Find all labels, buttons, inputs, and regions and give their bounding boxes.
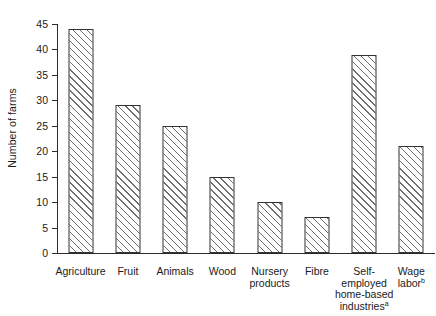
bar-chart: Number of farms 051015202530354045 Agric… (0, 0, 436, 316)
bar[interactable] (257, 202, 282, 253)
bar-slot (246, 10, 293, 253)
bar[interactable] (399, 146, 424, 253)
bar-series (57, 10, 435, 253)
footnote-marker: b (421, 276, 425, 283)
bar[interactable] (304, 217, 329, 253)
bar[interactable] (210, 177, 235, 253)
footnote-marker: a (385, 299, 389, 306)
bar-slot (104, 10, 151, 253)
bar[interactable] (163, 126, 188, 253)
y-axis-tick-label: 45 (36, 19, 48, 29)
y-axis-tick-label: 40 (36, 44, 48, 54)
y-axis-tick-label: 25 (36, 121, 48, 131)
y-axis-tick-labels: 051015202530354045 (26, 10, 52, 260)
y-axis-tick-label: 0 (42, 248, 48, 258)
y-axis-tick-label: 20 (36, 146, 48, 156)
y-axis-tick-label: 35 (36, 70, 48, 80)
bar[interactable] (115, 105, 140, 253)
x-axis-category-labels: AgricultureFruitAnimalsWoodNurseryproduc… (57, 266, 435, 316)
x-axis-category-label-line: Wage (378, 266, 436, 278)
bar-slot (152, 10, 199, 253)
bar-slot (341, 10, 388, 253)
bar-slot (199, 10, 246, 253)
plot-area: 051015202530354045 AgricultureFruitAnima… (26, 10, 436, 260)
y-axis-tick-label: 30 (36, 95, 48, 105)
y-axis-tick-label: 15 (36, 172, 48, 182)
bar-slot (293, 10, 340, 253)
bar-slot (57, 10, 104, 253)
x-axis-category-label-line: laborb (378, 278, 436, 290)
x-axis-category-label-line: industriesa (331, 301, 398, 313)
bar[interactable] (352, 55, 377, 253)
bar[interactable] (68, 29, 93, 253)
x-axis-category-label: Wagelaborb (378, 266, 436, 289)
y-axis-title: Number of farms (0, 0, 24, 255)
x-axis-line (57, 253, 435, 254)
bar-slot (388, 10, 435, 253)
y-axis-tick-label: 5 (42, 223, 48, 233)
x-axis-category-label-line: products (236, 278, 303, 290)
y-axis-title-text: Number of farms (6, 88, 18, 168)
y-axis-tick-label: 10 (36, 197, 48, 207)
